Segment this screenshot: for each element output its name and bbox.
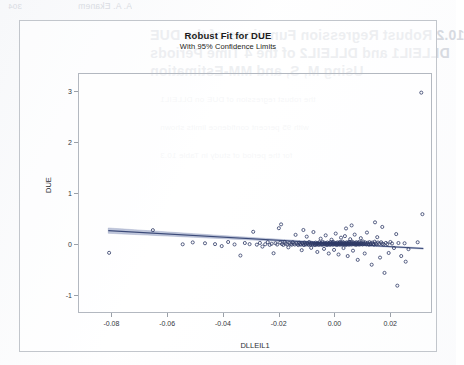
data-point (400, 254, 403, 257)
x-tick-label: -0.04 (215, 320, 231, 327)
data-point (370, 263, 373, 266)
data-point (346, 254, 349, 257)
x-tick-label: 0.02 (383, 320, 397, 327)
data-point (378, 256, 381, 259)
x-axis-label: DLLEIL1 (78, 341, 432, 350)
data-point (252, 230, 255, 233)
data-point (302, 228, 305, 231)
data-point (356, 258, 359, 261)
ghost-header-name: A. A. Ekanem (78, 1, 132, 11)
data-point (337, 253, 340, 256)
data-point (305, 235, 308, 238)
data-point (108, 251, 111, 254)
data-point (261, 245, 264, 248)
y-tick-label: 3 (48, 87, 72, 94)
data-point (376, 236, 379, 239)
graph-output-box: Robust Fit for DUE With 95% Confidence L… (19, 20, 437, 352)
data-point (258, 241, 261, 244)
data-point (351, 249, 354, 252)
data-point (420, 91, 423, 94)
data-point (227, 240, 230, 243)
data-point (310, 246, 313, 249)
data-point (248, 243, 251, 246)
data-point (396, 284, 399, 287)
data-point (272, 252, 275, 255)
data-point (191, 241, 194, 244)
data-point (397, 241, 400, 244)
data-point (203, 242, 206, 245)
data-point (300, 249, 303, 252)
y-tick-label: -1 (48, 292, 72, 299)
data-point (319, 237, 322, 240)
data-point (416, 241, 419, 244)
plot-canvas (79, 74, 431, 312)
data-point (233, 243, 236, 246)
data-point (327, 252, 330, 255)
data-point (287, 246, 290, 249)
data-point (181, 243, 184, 246)
x-tick-label: -0.02 (271, 320, 287, 327)
scatter-series (108, 91, 424, 287)
data-point (383, 271, 386, 274)
data-point (350, 224, 353, 227)
y-tick-label: 1 (48, 190, 72, 197)
data-point (353, 233, 356, 236)
data-point (243, 241, 246, 244)
data-point (220, 245, 223, 248)
data-point (381, 225, 384, 228)
y-tick-label: 2 (48, 138, 72, 145)
data-point (322, 247, 325, 250)
x-tick-label: 0.00 (328, 320, 342, 327)
data-point (213, 243, 216, 246)
data-point (404, 260, 407, 263)
data-point (343, 235, 346, 238)
data-point (339, 236, 342, 239)
data-point (334, 232, 337, 235)
data-point (294, 233, 297, 236)
data-point (403, 242, 406, 245)
data-point (363, 252, 366, 255)
data-point (344, 227, 347, 230)
x-tick-label: -0.06 (159, 320, 175, 327)
data-point (359, 237, 362, 240)
data-point (365, 231, 368, 234)
chart-title: Robust Fit for DUE (20, 30, 436, 41)
y-tick-label: 0 (48, 241, 72, 248)
data-point (239, 254, 242, 257)
data-point (342, 246, 345, 249)
chart-subtitle: With 95% Confidence Limits (20, 42, 436, 51)
data-point (421, 213, 424, 216)
data-point (324, 234, 327, 237)
data-point (395, 233, 398, 236)
data-point (312, 230, 315, 233)
data-point (255, 243, 258, 246)
data-point (387, 251, 390, 254)
ghost-header-number: 304 (8, 2, 22, 11)
x-tick-label: -0.08 (103, 320, 119, 327)
data-point (373, 221, 376, 224)
plot-frame (78, 73, 432, 313)
data-point (280, 223, 283, 226)
data-point (316, 250, 319, 253)
data-point (333, 248, 336, 251)
data-point (277, 227, 280, 230)
